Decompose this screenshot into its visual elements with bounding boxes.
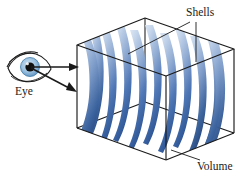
eye-label: Eye [15,85,33,98]
volume-label: Volume [197,160,233,172]
volume-shells-figure: Eye Shells Volume [0,0,247,175]
shell-stack [70,20,222,156]
view-ray-arrow-icon [66,82,77,92]
shells-label: Shells [186,6,215,18]
diagram-canvas: Eye Shells Volume [0,0,247,175]
volume-leader-line [171,150,200,160]
